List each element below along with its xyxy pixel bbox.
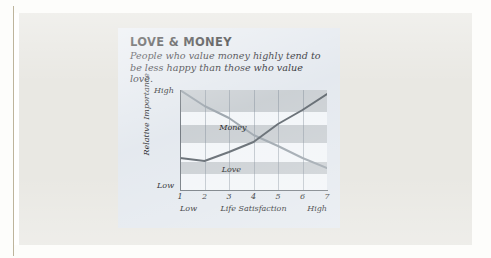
series-line-money	[180, 90, 327, 168]
line-chart: Relative Importance High Low Money Love …	[130, 85, 330, 219]
figure-subtitle: People who value money highly tend to be…	[130, 50, 326, 85]
series-label-money: Money	[219, 123, 246, 132]
page-margin-bottom	[13, 245, 472, 258]
page-root: LOVE & MONEY People who value money high…	[0, 0, 491, 258]
x-axis-title: Life Satisfaction	[220, 204, 286, 213]
x-axis-tick-1: 1	[177, 192, 182, 201]
x-axis-caption-high: High	[307, 204, 327, 213]
x-axis-tick-2: 2	[202, 192, 207, 201]
figure-card: LOVE & MONEY People who value money high…	[118, 28, 340, 228]
y-axis-title: Relative Importance	[142, 76, 151, 156]
x-axis-tick-6: 6	[300, 192, 305, 201]
x-axis-caption-low: Low	[180, 204, 197, 213]
page-margin-right	[472, 0, 491, 258]
x-axis-ticks: 1234567	[180, 192, 327, 204]
figure-title: LOVE & MONEY	[130, 35, 232, 49]
x-axis-tick-3: 3	[226, 192, 231, 201]
x-axis-tick-7: 7	[324, 192, 329, 201]
page-margin-top	[13, 0, 472, 13]
x-axis-captions: Low Life Satisfaction High	[180, 204, 327, 216]
x-axis-tick-5: 5	[275, 192, 280, 201]
page-gutter-rule	[13, 6, 14, 256]
x-axis-tick-4: 4	[251, 192, 256, 201]
plot-area: Money Love	[180, 90, 327, 190]
series-lines	[180, 90, 327, 190]
series-label-love: Love	[222, 165, 241, 174]
page-margin-left	[0, 0, 13, 258]
